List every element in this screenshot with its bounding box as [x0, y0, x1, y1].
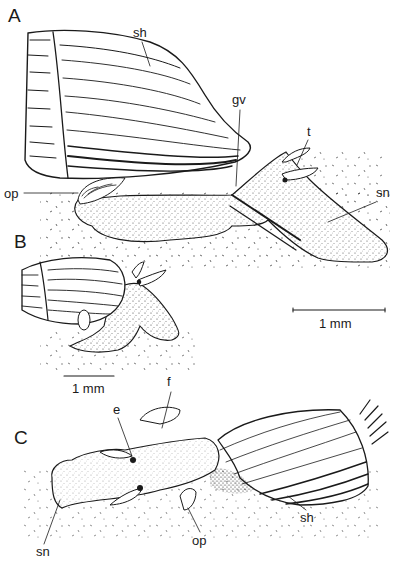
shell-a [25, 30, 250, 178]
eye-a [283, 178, 288, 183]
label-foot-c: f [167, 374, 171, 389]
panel-a: A [4, 5, 390, 270]
label-snout-a: sn [376, 185, 390, 200]
scale-bar-a: 1 mm [293, 308, 385, 331]
eye-c-lower [137, 485, 143, 491]
eye-c-upper [130, 457, 136, 463]
scale-label-b: 1 mm [72, 381, 105, 396]
panel-label-c: C [14, 427, 28, 448]
label-groove-a: gv [232, 92, 246, 107]
label-shell-c: sh [300, 510, 314, 525]
label-tentacle-a: t [307, 124, 311, 139]
label-operculum-a: op [4, 186, 18, 201]
panel-c: C e f sn [14, 374, 388, 559]
foot-c [140, 407, 180, 424]
eye-b [137, 280, 142, 285]
scale-bar-b: 1 mm [64, 376, 114, 396]
panel-label-a: A [8, 5, 21, 26]
label-shell-a: sh [133, 25, 147, 40]
panel-label-b: B [14, 231, 27, 252]
operculum-b [78, 310, 90, 330]
snail-illustration: A [0, 0, 393, 571]
label-snout-c: sn [36, 544, 50, 559]
scale-label-a: 1 mm [319, 316, 352, 331]
label-operculum-c: op [192, 533, 206, 548]
label-eye-c: e [113, 402, 120, 417]
